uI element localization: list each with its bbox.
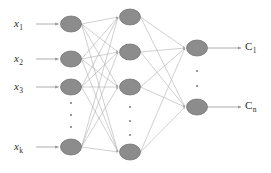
input-layer-ellipsis-dot-3 bbox=[70, 126, 72, 128]
edges-hidden1-to-output bbox=[141, 17, 186, 152]
hidden1-node-4 bbox=[120, 144, 141, 160]
edge-h1n3-out1 bbox=[141, 48, 186, 87]
edge-h1n4-out2 bbox=[141, 107, 186, 152]
output-label-2: Cn bbox=[245, 100, 256, 111]
output-node-2 bbox=[187, 99, 208, 115]
output-layer-nodes bbox=[187, 40, 208, 115]
input-label-3: x3 bbox=[14, 81, 23, 92]
output-node-1 bbox=[187, 40, 208, 56]
neural-network-figure: x1x2x3xkC1Cn bbox=[0, 0, 271, 173]
edge-h1n2-out1 bbox=[141, 48, 186, 52]
edge-h1n2-out2 bbox=[141, 52, 186, 107]
input-layer-nodes bbox=[61, 16, 82, 155]
hidden-layer-1-ellipsis-dot-3 bbox=[129, 134, 131, 136]
output-label-1: C1 bbox=[245, 41, 256, 52]
input-node-3 bbox=[61, 79, 82, 95]
input-label-1: x1 bbox=[14, 18, 23, 29]
network-graphic bbox=[0, 0, 271, 173]
edge-h1n1-out2 bbox=[141, 17, 186, 107]
input-label-4-subscript: k bbox=[19, 146, 23, 155]
output-layer-ellipsis-dot-1 bbox=[196, 70, 198, 72]
input-label-4: xk bbox=[14, 141, 23, 152]
hidden1-node-2 bbox=[120, 44, 141, 60]
hidden1-node-1 bbox=[120, 9, 141, 25]
input-node-4 bbox=[61, 139, 82, 155]
edge-input3-h1n1 bbox=[82, 17, 119, 87]
hidden1-node-3 bbox=[120, 79, 141, 95]
input-label-2: x2 bbox=[14, 53, 23, 64]
input-arrows-group bbox=[36, 24, 59, 147]
edge-input4-h1n4 bbox=[82, 147, 119, 152]
edges-input-to-hidden1 bbox=[82, 17, 119, 152]
output-label-1-base: C bbox=[245, 40, 252, 52]
input-node-1 bbox=[61, 16, 82, 32]
input-layer-ellipsis-dot-2 bbox=[70, 114, 72, 116]
edge-input3-h1n4 bbox=[82, 87, 119, 152]
output-label-1-subscript: 1 bbox=[253, 46, 257, 55]
edge-h1n4-out1 bbox=[141, 48, 186, 152]
edge-h1n1-out1 bbox=[141, 17, 186, 48]
output-label-2-base: C bbox=[245, 99, 252, 111]
hidden-layer-1-ellipsis-dot-2 bbox=[129, 120, 131, 122]
output-layer-ellipsis-dot-2 bbox=[196, 85, 198, 87]
edge-input2-h1n1 bbox=[82, 17, 119, 59]
hidden-layer-1-ellipsis-dot-1 bbox=[129, 106, 131, 108]
output-label-2-subscript: n bbox=[253, 105, 257, 114]
input-label-3-subscript: 3 bbox=[19, 86, 23, 95]
output-arrows-group bbox=[208, 48, 242, 107]
input-label-2-subscript: 2 bbox=[19, 58, 23, 67]
input-label-1-subscript: 1 bbox=[19, 23, 23, 32]
hidden-layer-1-nodes bbox=[120, 9, 141, 160]
input-layer-ellipsis-dot-1 bbox=[70, 102, 72, 104]
input-node-2 bbox=[61, 51, 82, 67]
edge-h1n3-out2 bbox=[141, 87, 186, 107]
